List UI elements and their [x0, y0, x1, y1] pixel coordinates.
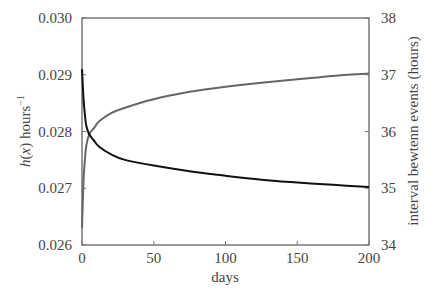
plot-frame — [82, 18, 369, 245]
x-tick-label: 100 — [214, 250, 237, 266]
y-left-tick-label: 0.026 — [38, 237, 72, 253]
y-right-tick-label: 34 — [381, 237, 397, 253]
y-left-axis-label: h(x) hours−1 — [15, 95, 34, 167]
y-left-tick-label: 0.030 — [38, 10, 72, 26]
y-left-tick-label: 0.027 — [38, 180, 72, 196]
x-tick-label: 50 — [146, 250, 161, 266]
x-tick-label: 150 — [286, 250, 309, 266]
y-right-axis-label: interval bewtenn events (hours) — [405, 36, 422, 226]
y-right-tick-label: 36 — [381, 124, 397, 140]
interval-series-line — [82, 74, 369, 228]
dual-axis-line-chart: 050100150200 0.0260.0270.0280.0290.030 3… — [0, 0, 432, 296]
x-axis-label: days — [211, 269, 239, 285]
y-right-tick-label: 38 — [381, 10, 396, 26]
y-right-tick-labels: 3435363738 — [381, 10, 397, 253]
axis-ticks — [82, 18, 369, 245]
y-right-tick-label: 35 — [381, 180, 396, 196]
x-tick-labels: 050100150200 — [78, 250, 380, 266]
x-tick-label: 200 — [358, 250, 381, 266]
x-tick-label: 0 — [78, 250, 86, 266]
y-left-tick-label: 0.028 — [38, 124, 72, 140]
y-left-tick-labels: 0.0260.0270.0280.0290.030 — [38, 10, 72, 253]
y-right-tick-label: 37 — [381, 67, 397, 83]
y-left-tick-label: 0.029 — [38, 67, 72, 83]
